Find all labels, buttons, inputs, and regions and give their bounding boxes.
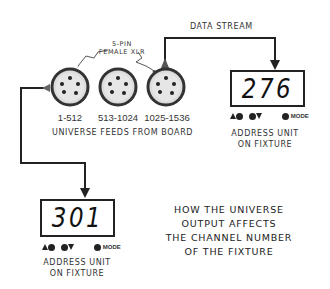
fixture-display-left: 301 xyxy=(40,199,115,237)
xlr-connector-1 xyxy=(52,69,88,105)
connector-2-range: 513-1024 xyxy=(93,112,143,123)
button-icon[interactable] xyxy=(236,113,243,120)
fixture-caption-left: ADDRESS UNIT ON FIXTURE xyxy=(37,257,117,279)
down-button-icon[interactable] xyxy=(68,244,74,250)
fixture-buttons-left: MODE xyxy=(42,243,137,253)
button-icon[interactable] xyxy=(61,244,68,251)
arrow-up-icon xyxy=(161,58,169,68)
connectors-caption: UNIVERSE FEEDS FROM BOARD xyxy=(52,128,193,137)
button-icon[interactable] xyxy=(48,244,55,251)
data-stream-label: DATA STREAM xyxy=(190,22,253,31)
arrow-down-icon xyxy=(270,60,280,70)
address-value: 301 xyxy=(47,202,107,233)
fixture-display-right: 276 xyxy=(230,70,305,107)
connector-type-label: 5-PIN FEMALE XLR xyxy=(92,40,152,56)
connector-3-range: 1025-1536 xyxy=(140,112,194,123)
connector-1-range: 1-512 xyxy=(50,112,90,123)
xlr-connector-3 xyxy=(148,69,184,105)
button-icon[interactable] xyxy=(249,113,256,120)
xlr-connector-2 xyxy=(100,69,136,105)
fixture-buttons-right: MODE xyxy=(230,112,325,122)
mode-button-icon[interactable] xyxy=(94,244,101,251)
down-button-icon[interactable] xyxy=(256,113,262,119)
address-value: 276 xyxy=(237,73,297,104)
arrow-left-icon xyxy=(42,84,50,92)
fixture-caption-right: ADDRESS UNIT ON FIXTURE xyxy=(225,128,305,150)
mode-button-icon[interactable] xyxy=(282,113,289,120)
arrow-down-icon xyxy=(80,188,90,198)
diagram-title: HOW THE UNIVERSE OUTPUT AFFECTS THE CHAN… xyxy=(150,203,308,259)
